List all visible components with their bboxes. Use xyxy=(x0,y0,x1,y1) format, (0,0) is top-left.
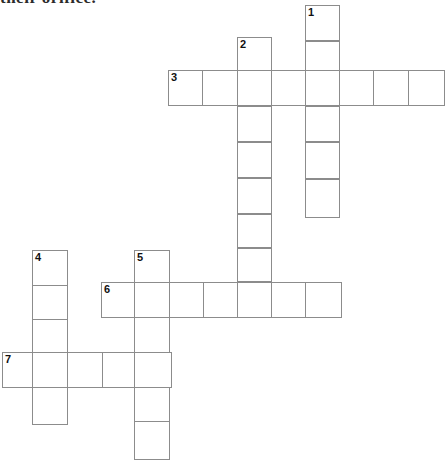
cell-1-down-4[interactable] xyxy=(305,142,340,179)
cell-3-across-7[interactable] xyxy=(408,70,445,106)
cell-2-down-2[interactable] xyxy=(237,106,272,142)
cell-1-down-3[interactable] xyxy=(305,106,340,142)
cell-3-across-1[interactable] xyxy=(202,70,238,106)
cell-number-1: 1 xyxy=(308,6,314,19)
crossword-grid[interactable]: 1234567 xyxy=(0,0,447,468)
cell-3-across-2[interactable] xyxy=(237,70,272,106)
cell-1-down-0[interactable]: 1 xyxy=(305,5,340,41)
cell-4-down-4[interactable] xyxy=(32,387,68,425)
cell-5-down-5[interactable] xyxy=(134,421,170,460)
cell-3-across-4[interactable] xyxy=(305,70,340,106)
cell-4-down-0[interactable]: 4 xyxy=(32,250,68,286)
cell-7-across-4[interactable] xyxy=(134,352,172,388)
cell-7-across-3[interactable] xyxy=(102,352,135,388)
cell-3-across-6[interactable] xyxy=(373,70,409,106)
cell-2-down-0[interactable]: 2 xyxy=(237,37,272,71)
cell-6-across-5[interactable] xyxy=(271,282,306,318)
cell-1-down-5[interactable] xyxy=(305,179,340,218)
cell-5-down-0[interactable]: 5 xyxy=(134,250,170,286)
cell-4-down-1[interactable] xyxy=(32,285,68,320)
cell-number-6: 6 xyxy=(104,283,110,296)
cell-3-across-0[interactable]: 3 xyxy=(168,70,203,106)
cell-5-down-4[interactable] xyxy=(134,387,170,422)
cell-6-across-1[interactable] xyxy=(134,282,170,318)
cell-4-down-2[interactable] xyxy=(32,319,68,353)
cell-7-across-0[interactable]: 7 xyxy=(2,352,33,388)
cell-2-down-4[interactable] xyxy=(237,178,272,214)
cell-6-across-3[interactable] xyxy=(203,282,238,318)
cell-6-across-0[interactable]: 6 xyxy=(101,282,136,318)
cell-5-down-2[interactable] xyxy=(134,317,170,353)
crossword-page: their orifice. 1234567 xyxy=(0,0,447,468)
cell-7-across-2[interactable] xyxy=(67,352,103,388)
cell-6-across-2[interactable] xyxy=(169,282,204,318)
cell-3-across-3[interactable] xyxy=(271,70,306,106)
cell-number-5: 5 xyxy=(137,251,143,264)
cell-number-7: 7 xyxy=(5,353,11,366)
cell-6-across-6[interactable] xyxy=(305,282,342,318)
cell-2-down-6[interactable] xyxy=(237,248,272,282)
cell-2-down-3[interactable] xyxy=(237,142,272,178)
cell-3-across-5[interactable] xyxy=(339,70,374,106)
cell-6-across-4[interactable] xyxy=(237,282,272,318)
cell-number-3: 3 xyxy=(171,71,177,84)
cell-number-4: 4 xyxy=(35,251,41,264)
cell-number-2: 2 xyxy=(240,38,246,51)
cell-2-down-5[interactable] xyxy=(237,214,272,248)
cell-7-across-1[interactable] xyxy=(32,352,68,388)
